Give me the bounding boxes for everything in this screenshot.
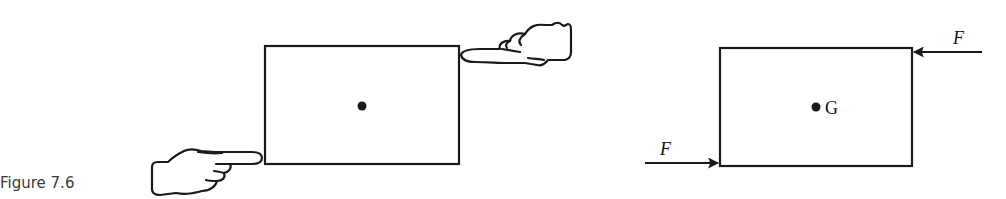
center-of-gravity-label: G	[825, 98, 838, 118]
left-diagram	[152, 23, 571, 195]
force-label-top: F	[952, 28, 965, 48]
center-of-gravity-dot	[812, 103, 821, 112]
force-label-bottom: F	[659, 139, 672, 159]
pointing-hand-icon-top	[461, 23, 571, 66]
center-dot	[358, 102, 367, 111]
figure-diagrams: G F F	[0, 0, 1006, 199]
right-diagram: G F F	[645, 28, 982, 166]
pointing-hand-icon-bottom	[152, 149, 262, 195]
